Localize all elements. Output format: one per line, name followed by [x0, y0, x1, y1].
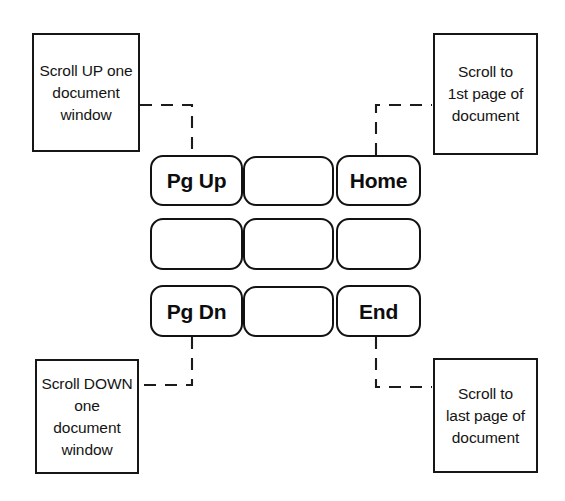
callout-scroll-down-text: Scroll DOWN one document window: [39, 373, 134, 461]
callout-scroll-up-text: Scroll UP one document window: [37, 60, 134, 126]
keyboard-navigation-diagram: Scroll UP one document window Scroll to …: [0, 0, 565, 501]
key-blank-r1c2[interactable]: [243, 156, 334, 206]
callout-scroll-first-page: Scroll to 1st page of document: [433, 33, 538, 155]
key-page-up[interactable]: Pg Up: [150, 155, 243, 206]
callout-scroll-first-page-text: Scroll to 1st page of document: [446, 61, 526, 127]
key-blank-r2c1[interactable]: [150, 218, 243, 270]
connector-end-to-scroll-last: [376, 337, 432, 387]
connector-scroll-up-to-pgup: [140, 105, 192, 156]
callout-scroll-last-page: Scroll to last page of document: [433, 358, 538, 473]
key-blank-r2c3[interactable]: [336, 218, 421, 270]
key-home-label: Home: [350, 170, 408, 191]
connector-pgdn-to-scroll-down: [140, 337, 192, 385]
key-page-up-label: Pg Up: [167, 170, 227, 191]
key-blank-r3c2[interactable]: [243, 286, 334, 337]
key-home[interactable]: Home: [336, 155, 421, 206]
key-page-down-label: Pg Dn: [167, 301, 227, 322]
key-end-label: End: [359, 301, 398, 322]
key-end[interactable]: End: [336, 285, 421, 337]
key-page-down[interactable]: Pg Dn: [150, 285, 243, 337]
callout-scroll-up: Scroll UP one document window: [32, 33, 140, 152]
connector-home-to-scroll-first: [376, 105, 432, 155]
key-blank-r2c2[interactable]: [243, 218, 334, 270]
callout-scroll-down: Scroll DOWN one document window: [35, 359, 139, 474]
callout-scroll-last-page-text: Scroll to last page of document: [444, 383, 527, 449]
